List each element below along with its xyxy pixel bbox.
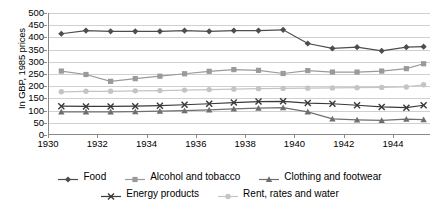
y-tick-label: 100 xyxy=(2,106,44,116)
diamond-marker xyxy=(421,44,427,50)
x-tick-label: 1942 xyxy=(324,139,364,149)
diamond-marker xyxy=(58,31,64,37)
circle-marker xyxy=(157,88,162,93)
x-tick-mark xyxy=(344,135,345,138)
circle-marker xyxy=(280,86,285,91)
square-marker xyxy=(108,79,113,84)
series-line xyxy=(61,101,423,107)
circle-marker xyxy=(59,89,64,94)
series-line xyxy=(61,85,423,92)
y-tick-mark xyxy=(44,74,47,75)
x-tick-mark xyxy=(147,135,148,138)
square-marker xyxy=(182,71,187,76)
square-marker xyxy=(379,68,384,73)
circle-marker xyxy=(354,85,359,90)
square-marker xyxy=(404,66,409,71)
circle-marker xyxy=(206,87,211,92)
circle-marker xyxy=(305,85,310,90)
diamond-marker xyxy=(181,27,187,33)
circle-marker xyxy=(83,89,88,94)
chart-legend: FoodAlcohol and tobaccoClothing and foot… xyxy=(0,168,439,202)
square-marker xyxy=(421,61,426,66)
x-tick-mark xyxy=(245,135,246,138)
y-tick-mark xyxy=(44,25,47,26)
circle-marker xyxy=(225,194,230,199)
y-tick-label: 300 xyxy=(2,57,44,67)
series-2 xyxy=(58,104,427,123)
diamond-marker xyxy=(329,45,335,51)
square-marker xyxy=(231,67,236,72)
square-marker xyxy=(354,69,359,74)
series-4 xyxy=(59,82,427,94)
diamond-marker xyxy=(65,176,71,182)
x-tick-label: 1934 xyxy=(127,139,167,149)
circle-icon xyxy=(217,188,239,199)
circle-marker xyxy=(231,86,236,91)
y-tick-label: 450 xyxy=(2,20,44,30)
diamond-marker xyxy=(83,27,89,33)
legend-label: Energy products xyxy=(126,188,199,199)
y-tick-label: 150 xyxy=(2,93,44,103)
x-tick-label: 1938 xyxy=(225,139,265,149)
x-axis-tick-labels: 19301932193419361938194019421944 xyxy=(48,135,430,153)
y-tick-mark xyxy=(44,86,47,87)
y-tick-mark xyxy=(44,13,47,14)
y-tick-label: 350 xyxy=(2,45,44,55)
circle-marker xyxy=(421,82,426,87)
x-tick-mark xyxy=(393,135,394,138)
circle-marker xyxy=(330,85,335,90)
chart-container: In GBP, 1985 prices 05010015020025030035… xyxy=(0,0,439,220)
x-tick-mark xyxy=(294,135,295,138)
y-tick-label: 500 xyxy=(2,8,44,18)
x-tick-label: 1936 xyxy=(176,139,216,149)
x-tick-mark xyxy=(48,135,49,138)
diamond-marker xyxy=(108,28,114,34)
circle-marker xyxy=(256,86,261,91)
y-tick-mark xyxy=(44,111,47,112)
circle-marker xyxy=(379,85,384,90)
y-tick-mark xyxy=(44,135,47,136)
x-tick-mark xyxy=(196,135,197,138)
x-tick-mark xyxy=(97,135,98,138)
x-tick-label: 1930 xyxy=(28,139,68,149)
y-axis-tick-labels: 050100150200250300350400450500 xyxy=(0,13,44,135)
circle-marker xyxy=(108,89,113,94)
diamond-marker xyxy=(354,44,360,50)
y-tick-label: 250 xyxy=(2,69,44,79)
legend-label: Food xyxy=(83,171,106,182)
circle-marker xyxy=(182,87,187,92)
diamond-marker xyxy=(206,28,212,34)
diamond-marker xyxy=(255,27,261,33)
square-icon xyxy=(124,171,146,182)
legend-label: Alcohol and tobacco xyxy=(150,171,240,182)
legend-item: Clothing and footwear xyxy=(258,171,381,182)
y-tick-mark xyxy=(44,98,47,99)
y-tick-mark xyxy=(44,50,47,51)
diamond-marker xyxy=(403,44,409,50)
triangle-icon xyxy=(258,171,280,182)
legend-item: Food xyxy=(57,171,106,182)
cross-icon xyxy=(100,188,122,199)
series-line xyxy=(61,30,423,51)
diamond-marker xyxy=(305,40,311,46)
series-lines xyxy=(49,13,431,135)
square-marker xyxy=(133,76,138,81)
square-marker xyxy=(330,69,335,74)
legend-label: Clothing and footwear xyxy=(284,171,381,182)
diamond-icon xyxy=(57,171,79,182)
square-marker xyxy=(157,74,162,79)
legend-label: Rent, rates and water xyxy=(243,188,339,199)
square-marker xyxy=(305,68,310,73)
series-line xyxy=(61,64,423,82)
square-marker xyxy=(133,177,138,182)
series-0 xyxy=(58,27,426,54)
legend-item: Energy products xyxy=(100,188,199,199)
square-marker xyxy=(256,68,261,73)
legend-row-1: FoodAlcohol and tobaccoClothing and foot… xyxy=(0,168,439,185)
diamond-marker xyxy=(231,27,237,33)
circle-marker xyxy=(404,84,409,89)
plot-area xyxy=(48,13,430,135)
y-tick-mark xyxy=(44,123,47,124)
square-marker xyxy=(83,72,88,77)
x-tick-label: 1940 xyxy=(274,139,314,149)
